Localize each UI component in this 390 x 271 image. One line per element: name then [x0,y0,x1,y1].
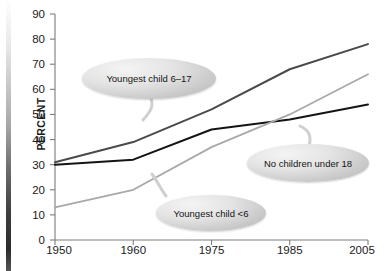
y-tick-label: 0 [19,234,45,246]
y-tick-label: 50 [19,108,45,120]
callout-label: No children under 18 [264,158,352,169]
x-tick-label: 2005 [349,244,375,256]
callout-label: Youngest child <6 [174,208,249,219]
y-tick-label: 40 [19,134,45,146]
x-tick-label: 1985 [277,244,303,256]
y-tick-label: 70 [19,58,45,70]
callout-youngest-under-6: Youngest child <6 [156,195,266,231]
y-tick-label: 20 [19,184,45,196]
decorative-edge-bar [6,0,11,271]
x-tick-label: 1960 [120,244,146,256]
callout-youngest-6-17: Youngest child 6–17 [82,58,216,99]
chart-root: PERCENT 0102030405060708090 195019601975… [0,0,390,271]
y-tick-label: 10 [19,209,45,221]
x-tick-label: 1975 [199,244,225,256]
y-tick-label: 90 [19,8,45,20]
y-tick-label: 30 [19,159,45,171]
y-tick-label: 80 [19,33,45,45]
callout-label: Youngest child 6–17 [106,73,191,84]
series-line-2 [55,74,368,207]
callout-no-children: No children under 18 [247,144,369,182]
x-tick-label: 1950 [46,244,72,256]
y-tick-label: 60 [19,83,45,95]
